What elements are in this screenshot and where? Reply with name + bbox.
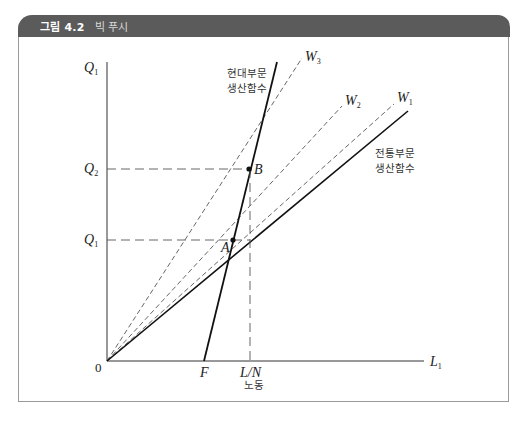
point-b-label: B — [254, 162, 263, 177]
traditional-label-line1: 전통부문 — [375, 147, 415, 159]
w2-label: W2 — [345, 93, 361, 110]
wage-line-w2 — [107, 106, 342, 361]
modern-label-line1: 현대부문 — [227, 67, 267, 79]
w3-label: W3 — [305, 49, 321, 66]
traditional-production-line — [107, 111, 408, 361]
wage-line-w1 — [107, 104, 394, 361]
x-axis-label: L1 — [429, 354, 442, 371]
modern-label-line2: 생산함수 — [227, 82, 267, 94]
origin-label: 0 — [95, 360, 102, 375]
f-label: F — [199, 365, 209, 380]
y-axis-label: Q1 — [84, 60, 98, 77]
point-b — [246, 166, 251, 171]
q2-label: Q2 — [84, 161, 98, 178]
modern-production-line — [204, 62, 277, 361]
big-push-diagram: Q1 L1 0 노동 Q2 Q1 F L/N B A W3 W2 W1 현대부문… — [0, 0, 524, 422]
wage-line-w3 — [107, 58, 302, 361]
point-a — [230, 237, 235, 242]
traditional-label-line2: 생산함수 — [375, 162, 415, 174]
point-a-label: A — [220, 240, 230, 255]
q1-label: Q1 — [84, 232, 98, 249]
x-axis-caption: 노동 — [244, 379, 264, 391]
w1-label: W1 — [397, 90, 413, 107]
ln-label: L/N — [239, 365, 262, 380]
